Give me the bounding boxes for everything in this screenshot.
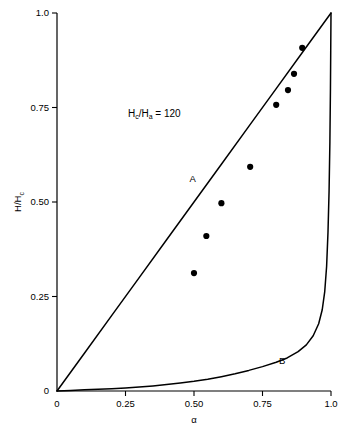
y-tick-label-2: 0.50 <box>31 196 50 207</box>
y-tick-label-0: 0 <box>44 385 49 396</box>
data-point-1 <box>203 233 209 239</box>
curve-a-label: A <box>189 173 196 184</box>
x-axis-ticks: 00.250.500.751.0 <box>54 391 337 409</box>
x-tick-label-1: 0.25 <box>116 398 135 409</box>
y-tick-label-3: 0.75 <box>31 102 50 113</box>
parameter-annotation: Hc/Ha = 120 <box>128 108 181 120</box>
y-tick-label-1: 0.25 <box>31 291 50 302</box>
data-point-0 <box>191 270 197 276</box>
y-tick-label-4: 1.0 <box>36 7 49 18</box>
svg-text:H/Hc: H/Hc <box>12 192 25 212</box>
curve-b-label: B <box>279 355 285 366</box>
y-axis-title: H/Hc <box>12 192 25 212</box>
x-tick-label-3: 0.75 <box>253 398 272 409</box>
data-point-4 <box>273 102 279 108</box>
scatter-series <box>191 45 305 276</box>
data-point-2 <box>218 200 224 206</box>
curve-a <box>57 13 331 391</box>
data-point-6 <box>291 71 297 77</box>
x-tick-label-0: 0 <box>54 398 59 409</box>
y-axis-ticks: 00.250.500.751.0 <box>31 7 58 396</box>
data-point-5 <box>285 87 291 93</box>
x-tick-label-2: 0.50 <box>185 398 204 409</box>
chart-figure: 00.250.500.751.000.250.500.751.0αH/HcHc/… <box>0 0 345 427</box>
x-tick-label-4: 1.0 <box>324 398 337 409</box>
chart-plot-area: 00.250.500.751.000.250.500.751.0αH/HcHc/… <box>0 0 345 427</box>
data-point-7 <box>299 45 305 51</box>
data-point-3 <box>247 164 253 170</box>
x-axis-title: α <box>191 414 197 425</box>
